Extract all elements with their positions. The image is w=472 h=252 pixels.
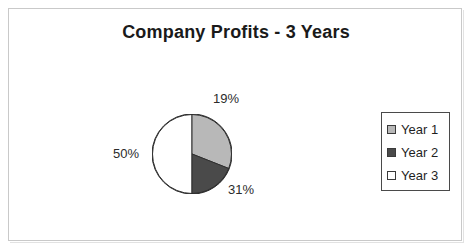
pie-slice-year3 — [152, 114, 192, 194]
legend-label-year3: Year 3 — [401, 168, 438, 183]
chart-screenshot: Company Profits - 3 Years 19% 31% 50% Ye… — [0, 0, 472, 252]
legend-swatch-icon-year3 — [387, 171, 396, 180]
legend-swatch-icon-year2 — [387, 148, 396, 157]
legend-swatch-icon-year1 — [387, 125, 396, 134]
legend-item-year1: Year 1 — [387, 118, 445, 141]
chart-legend: Year 1 Year 2 Year 3 — [381, 112, 450, 191]
chart-title: Company Profits - 3 Years — [0, 22, 472, 43]
legend-label-year2: Year 2 — [401, 145, 438, 160]
pie-chart — [152, 114, 232, 194]
legend-label-year1: Year 1 — [401, 122, 438, 137]
pie-svg — [152, 114, 232, 194]
pie-label-year2: 31% — [228, 182, 254, 197]
legend-item-year2: Year 2 — [387, 141, 445, 164]
legend-item-year3: Year 3 — [387, 164, 445, 187]
pie-label-year3: 50% — [113, 146, 139, 161]
pie-label-year1: 19% — [213, 91, 239, 106]
